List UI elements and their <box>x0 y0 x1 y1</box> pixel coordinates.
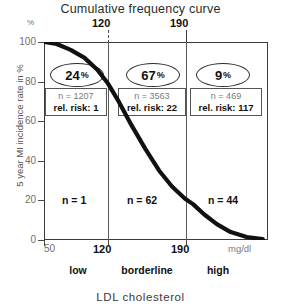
x-tick-label-190: 190 <box>171 243 189 255</box>
x-tick-label-120: 120 <box>93 243 111 255</box>
cumulative-frequency-curve <box>44 42 268 240</box>
top-marker-120: 120 <box>92 17 110 29</box>
y-axis-title: 5 year MI incidence rate in % <box>14 36 25 216</box>
chart-title: Cumulative frequency curve <box>0 2 281 16</box>
x-axis-title: LDL cholesterol <box>0 291 281 303</box>
top-marker-190: 190 <box>170 17 188 29</box>
y-axis-unit-symbol: % <box>27 18 34 27</box>
chart-figure: Cumulative frequency curve % 120 190 100… <box>0 0 281 307</box>
band-label-borderline: borderline <box>107 264 187 276</box>
x-axis-unit: mg/dl <box>228 243 251 254</box>
band-label-high: high <box>186 264 250 276</box>
y-tick-label-0: 0 <box>10 234 36 245</box>
band-label-low: low <box>48 264 108 276</box>
tick-divider-190-top <box>186 30 187 42</box>
x-tick-label-50: 50 <box>44 243 55 254</box>
